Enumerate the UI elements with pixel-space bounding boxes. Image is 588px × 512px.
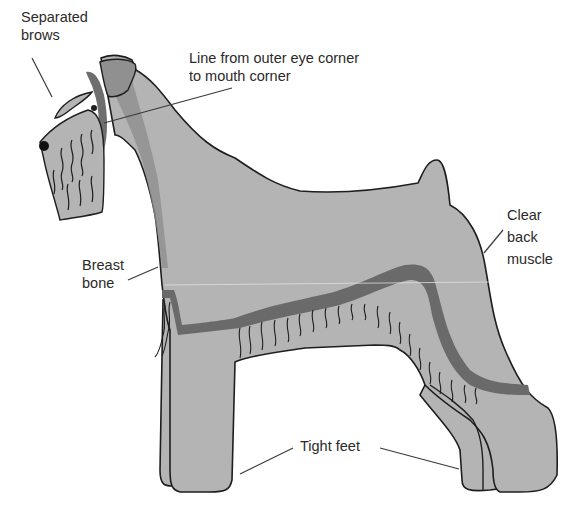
label-clear-back-muscle: Clear back muscle: [507, 204, 553, 270]
label-line: Breast: [82, 256, 124, 274]
label-line: to mouth corner: [189, 67, 359, 85]
leader-separated-brows: [32, 58, 52, 97]
label-line: back: [507, 226, 553, 248]
label-line: Tight feet: [300, 437, 360, 455]
label-line: Clear: [507, 204, 553, 226]
label-line: Line from outer eye corner: [189, 49, 359, 67]
label-eye-mouth-line: Line from outer eye corner to mouth corn…: [189, 49, 359, 85]
leader-tight-feet-rear: [380, 448, 459, 469]
leader-back-muscle: [484, 230, 503, 253]
label-breast-bone: Breast bone: [82, 256, 124, 292]
label-line: muscle: [507, 248, 553, 270]
dog-body: [101, 55, 557, 492]
leader-breast-bone: [128, 267, 158, 280]
label-tight-feet: Tight feet: [300, 437, 360, 455]
nose: [39, 141, 49, 151]
label-line: Separated: [21, 8, 88, 26]
eye: [91, 105, 97, 111]
label-line: bone: [82, 274, 124, 292]
label-line: brows: [21, 26, 88, 44]
leader-tight-feet-front: [240, 448, 293, 474]
label-separated-brows: Separated brows: [21, 8, 88, 44]
